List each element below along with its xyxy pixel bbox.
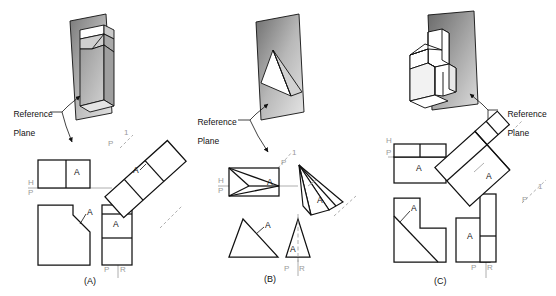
reference-plane-line2-b: Plane (197, 136, 219, 146)
auxiliary-view-a (105, 141, 186, 218)
fold-label-r-a: R (120, 265, 126, 274)
surface-label-aux-a: A (133, 166, 139, 176)
front-view-a (38, 205, 90, 265)
fold-label-p-right-b: P (284, 264, 289, 273)
front-view-leader-b (256, 227, 264, 234)
right-side-view-c (456, 194, 496, 262)
fold-label-1-a: 1 (124, 128, 128, 137)
reference-plane-line2-c: Plane (507, 128, 529, 138)
figure-caption-b: (B) (264, 274, 276, 284)
reference-plane-line1-b: Reference (197, 117, 236, 127)
fold-label-p-right-c: P (471, 263, 476, 272)
surface-label-top-c: A (416, 164, 422, 174)
fold-label-p-right-a: P (104, 265, 109, 274)
figure-c: Reference Plane H P P 1 P R A A A A (C) (370, 0, 556, 296)
reference-plane-line1-a: Reference (13, 109, 52, 119)
front-view-leader-a (80, 214, 86, 224)
surface-label-front-c: A (411, 204, 417, 214)
surface-label-right-c: A (467, 232, 473, 242)
reference-plane-label-b: Reference Plane (188, 108, 237, 157)
figure-caption-a: (A) (84, 276, 96, 286)
fold-label-r-c: R (487, 263, 493, 272)
surface-label-right-b: A (290, 245, 296, 255)
surface-label-front-b: A (265, 221, 271, 231)
fold-label-h-b: H (218, 176, 224, 185)
surface-label-aux-b: A (317, 196, 323, 206)
fold-label-h-a: H (28, 178, 34, 187)
fold-label-p-aux-b: P (281, 158, 286, 167)
surface-label-right-a: A (113, 220, 119, 230)
fold-label-p-top-a: P (28, 188, 33, 197)
reference-plane-label-a: Reference Plane (4, 100, 53, 149)
figure-caption-c: (C) (434, 276, 447, 286)
figure-a: Reference Plane H P P 1 P R A A A A (A) (0, 0, 186, 296)
auxiliary-view-b (299, 165, 343, 215)
reference-plane-line2-a: Plane (13, 128, 35, 138)
fold-label-p-aux-c: P (522, 195, 527, 204)
front-view-c (394, 198, 446, 262)
reference-plane-label-c: Reference Plane (498, 100, 547, 149)
fold-label-h-c: H (386, 136, 392, 145)
fold-label-1-c: 1 (538, 182, 542, 191)
fold-label-p-top-b: P (218, 186, 223, 195)
fold-label-r-b: R (299, 264, 305, 273)
fold-label-p-aux-a: P (108, 139, 113, 148)
reference-plane-line1-c: Reference (507, 109, 546, 119)
fold-label-p-top-c: P (386, 148, 391, 157)
surface-label-front-a: A (87, 208, 93, 218)
top-view-a (38, 160, 90, 188)
figure-b: Reference Plane H P P 1 P R A A A A (B) (186, 0, 372, 296)
fold-label-1-b: 1 (292, 148, 296, 157)
surface-label-aux-c: A (486, 172, 492, 182)
surface-label-top-a: A (74, 168, 80, 178)
pictorial-object-a (80, 25, 114, 112)
surface-label-top-b: A (267, 178, 273, 188)
